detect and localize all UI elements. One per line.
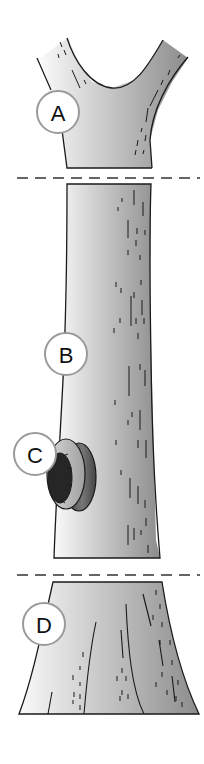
label-d: D (23, 603, 65, 645)
label-d-text: D (36, 613, 52, 638)
label-a-text: A (51, 101, 66, 126)
label-c-text: C (27, 443, 43, 468)
section-d-trunk-base (19, 582, 199, 714)
label-c: C (14, 433, 56, 475)
label-b: B (45, 333, 87, 375)
label-b-text: B (59, 343, 74, 368)
tree-diagram: A B C D (0, 0, 204, 764)
label-a: A (37, 91, 79, 133)
